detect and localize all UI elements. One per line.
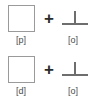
right-operand-cell: [o] <box>55 51 97 102</box>
right-operand-label: [o] <box>55 35 97 46</box>
up-tack-base <box>62 74 88 76</box>
left-operand-cell: [p] <box>4 0 42 51</box>
left-glyph-area <box>4 0 42 36</box>
right-operand-cell: [o] <box>55 0 97 51</box>
equation-row: [d] + [o] <box>0 51 101 102</box>
empty-square-icon <box>8 56 35 83</box>
up-tack-base <box>62 23 88 25</box>
left-operand-cell: [d] <box>4 51 42 102</box>
right-glyph-area <box>55 51 97 87</box>
up-tack-icon <box>61 56 89 83</box>
diagram-canvas: [p] + [o] [d] + <box>0 0 101 103</box>
right-operand-label: [o] <box>55 86 97 97</box>
up-tack-icon <box>61 5 89 32</box>
left-operand-label: [d] <box>4 86 42 97</box>
equation-row: [p] + [o] <box>0 0 101 51</box>
left-operand-label: [p] <box>4 35 42 46</box>
empty-square-icon <box>8 5 35 32</box>
left-glyph-area <box>4 51 42 87</box>
right-glyph-area <box>55 0 97 36</box>
